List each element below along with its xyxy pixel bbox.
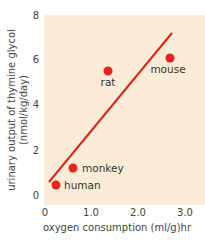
y-tick-8: 8 bbox=[33, 10, 39, 21]
scatter-chart: 8 6 4 2 0 0 1.0 2.0 3.0 oxygen consumpti… bbox=[0, 0, 205, 240]
point-mouse bbox=[166, 54, 175, 63]
plot-background bbox=[44, 15, 205, 205]
point-monkey bbox=[69, 164, 78, 173]
x-axis-ticks: 0 1.0 2.0 3.0 bbox=[42, 207, 193, 218]
y-tick-0: 0 bbox=[33, 190, 39, 201]
x-tick-2: 2.0 bbox=[130, 207, 146, 218]
x-tick-3: 3.0 bbox=[177, 207, 193, 218]
x-axis-label: oxygen consumption (ml/g)hr bbox=[43, 222, 192, 233]
x-tick-0: 0 bbox=[42, 207, 48, 218]
y-tick-6: 6 bbox=[33, 54, 39, 65]
y-axis-label-line2: (nmol/kg/day) bbox=[18, 75, 29, 145]
point-rat bbox=[104, 67, 113, 76]
y-tick-2: 2 bbox=[33, 145, 39, 156]
y-axis-label: urinary output of thymine glycol (nmol/k… bbox=[6, 29, 29, 191]
label-monkey: monkey bbox=[82, 162, 124, 174]
label-mouse: mouse bbox=[150, 63, 185, 75]
y-axis-label-line1: urinary output of thymine glycol bbox=[6, 29, 17, 191]
x-tick-1: 1.0 bbox=[83, 207, 99, 218]
label-rat: rat bbox=[101, 76, 116, 88]
label-human: human bbox=[64, 179, 101, 191]
y-tick-4: 4 bbox=[33, 99, 39, 110]
point-human bbox=[52, 181, 61, 190]
y-axis-ticks: 8 6 4 2 0 bbox=[33, 10, 39, 201]
